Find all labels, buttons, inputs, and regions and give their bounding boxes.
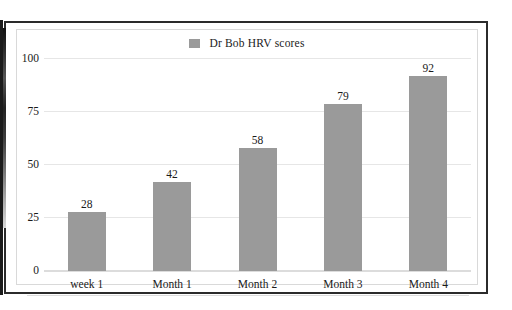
x-tick-slot-2: Month 2	[215, 272, 300, 296]
bar-slot-4: 92	[386, 59, 471, 271]
bar[interactable]: 28	[68, 212, 106, 271]
y-tick-label-50: 50	[28, 158, 40, 170]
chart-legend: Dr Bob HRV scores	[17, 36, 477, 50]
chart-plot-area: 0255075100 2842587992	[44, 59, 471, 271]
x-tick-label: Month 2	[238, 278, 277, 290]
y-tick-label-25: 25	[28, 211, 40, 223]
y-tick-label-100: 100	[22, 52, 39, 64]
bar-value-label: 58	[252, 134, 264, 146]
x-tick-slot-1: Month 1	[129, 272, 214, 296]
chart-figure-frame: Dr Bob HRV scores 0255075100 2842587992 …	[4, 21, 488, 294]
bar[interactable]: 79	[324, 104, 362, 271]
legend-swatch-hrv	[189, 39, 200, 48]
bar-slot-0: 28	[44, 59, 129, 271]
bar-value-label: 79	[337, 90, 349, 102]
x-tick-slot-4: Month 4	[386, 272, 471, 296]
bar-value-label: 92	[423, 62, 435, 74]
y-tick-label-75: 75	[28, 105, 40, 117]
chart-x-axis-rule	[27, 295, 469, 296]
bar-slot-1: 42	[129, 59, 214, 271]
x-tick-label: Month 4	[409, 278, 448, 290]
x-tick-label: week 1	[70, 278, 103, 290]
chart-plot-panel: Dr Bob HRV scores 0255075100 2842587992 …	[16, 29, 478, 285]
y-tick-label-0: 0	[33, 264, 39, 276]
bar-slot-3: 79	[300, 59, 385, 271]
x-tick-label: Month 3	[323, 278, 362, 290]
bar[interactable]: 42	[153, 182, 191, 271]
chart-bars: 2842587992	[44, 59, 471, 271]
x-tick-slot-0: week 1	[44, 272, 129, 296]
scan-edge-artifact-line	[0, 20, 3, 295]
bar[interactable]: 92	[409, 76, 447, 271]
x-tick-label: Month 1	[152, 278, 191, 290]
chart-x-axis: week 1Month 1Month 2Month 3Month 4	[44, 271, 471, 296]
legend-label-hrv: Dr Bob HRV scores	[209, 37, 304, 49]
bar[interactable]: 58	[239, 148, 277, 271]
bar-slot-2: 58	[215, 59, 300, 271]
bar-value-label: 28	[81, 198, 93, 210]
bar-value-label: 42	[166, 168, 178, 180]
x-tick-slot-3: Month 3	[300, 272, 385, 296]
